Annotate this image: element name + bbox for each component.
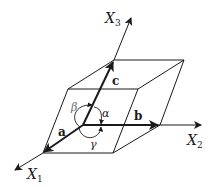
- axes: [15, 18, 201, 170]
- x3-label: X3: [104, 10, 121, 28]
- alpha-label: α: [102, 107, 110, 120]
- angle-arcs: [75, 105, 102, 138]
- x2-label: X2: [186, 132, 203, 150]
- diagram-svg: X3 X2 X1 a b c α β γ: [0, 0, 212, 187]
- gamma-arc: [79, 127, 101, 138]
- alpha-arc: [94, 107, 101, 124]
- lattice-diagram: X3 X2 X1 a b c α β γ: [0, 0, 212, 187]
- vector-b-label: b: [134, 109, 142, 123]
- x1-label: X1: [26, 166, 43, 184]
- gamma-label: γ: [90, 138, 97, 151]
- vector-c-label: c: [112, 74, 119, 88]
- beta-label: β: [70, 101, 77, 114]
- vector-a-label: a: [58, 125, 66, 139]
